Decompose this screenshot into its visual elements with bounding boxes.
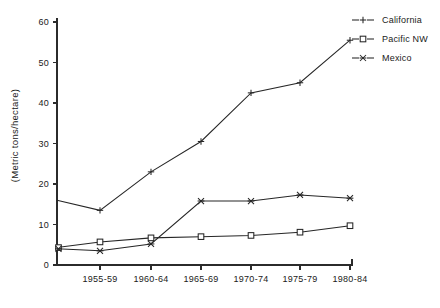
x-axis-tick-label: 1965-69 bbox=[183, 274, 218, 284]
legend-label: Pacific NW bbox=[382, 34, 428, 44]
chart-figure: 01020304050601955-591960-641965-691970-7… bbox=[0, 0, 440, 308]
x-axis-tick-label: 1975-79 bbox=[282, 274, 317, 284]
legend-marker-square bbox=[360, 36, 366, 42]
legend-label: California bbox=[382, 15, 422, 25]
data-point-marker bbox=[56, 245, 62, 251]
legend-label: Mexico bbox=[382, 53, 412, 63]
y-axis-tick-label: 10 bbox=[39, 220, 49, 230]
y-axis-title: (Metric tons/hectare) bbox=[9, 89, 20, 182]
data-point-marker bbox=[297, 229, 303, 235]
data-point-marker bbox=[97, 248, 104, 254]
x-axis-tick-label: 1960-64 bbox=[133, 274, 168, 284]
y-axis-tick-label: 30 bbox=[39, 139, 49, 149]
line-chart: 01020304050601955-591960-641965-691970-7… bbox=[0, 0, 440, 308]
y-axis-tick-label: 20 bbox=[39, 179, 49, 189]
x-axis-tick-label: 1955-59 bbox=[82, 274, 117, 284]
data-point-marker bbox=[198, 198, 205, 204]
x-axis-tick-label: 1970-74 bbox=[233, 274, 268, 284]
legend-marker-cross bbox=[360, 55, 367, 61]
data-point-marker bbox=[148, 235, 154, 241]
x-axis-line bbox=[57, 259, 352, 265]
legend-marker-plus bbox=[360, 17, 366, 23]
y-axis-tick-label: 50 bbox=[39, 58, 49, 68]
data-point-marker bbox=[97, 239, 103, 245]
data-point-marker bbox=[347, 195, 354, 201]
y-axis-tick-label: 0 bbox=[44, 260, 49, 270]
x-axis-tick-label: 1980-84 bbox=[332, 274, 367, 284]
data-point-marker bbox=[297, 192, 304, 198]
series-line-california bbox=[57, 40, 350, 210]
data-point-marker bbox=[248, 233, 254, 239]
data-point-marker bbox=[198, 234, 204, 240]
data-point-marker bbox=[248, 198, 255, 204]
data-point-marker bbox=[347, 223, 353, 229]
data-point-marker bbox=[148, 241, 155, 247]
y-axis-tick-label: 60 bbox=[39, 17, 49, 27]
y-axis-tick-label: 40 bbox=[39, 98, 49, 108]
